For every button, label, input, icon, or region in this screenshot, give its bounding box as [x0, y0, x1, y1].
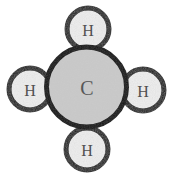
- hydrogen-left-label: H: [24, 82, 36, 99]
- carbon-label: C: [80, 77, 93, 99]
- hydrogen-top-label: H: [82, 22, 94, 39]
- hydrogen-bottom-label: H: [81, 142, 93, 159]
- molecule-svg-canvas: H H H H C: [0, 0, 174, 178]
- hydrogen-atom-bottom: H: [66, 128, 108, 170]
- hydrogen-right-label: H: [137, 83, 149, 100]
- carbon-atom: C: [47, 47, 127, 127]
- methane-molecule-diagram: H H H H C: [0, 0, 174, 178]
- hydrogen-atom-top: H: [67, 8, 109, 50]
